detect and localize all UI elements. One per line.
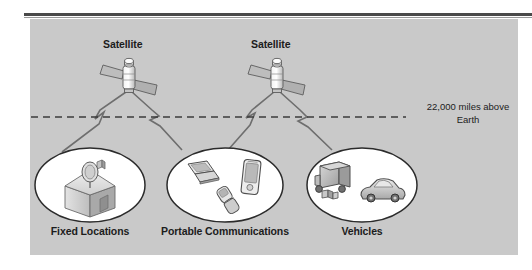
group-label-vehicles: Vehicles bbox=[312, 225, 412, 237]
group-label-portable-communications: Portable Communications bbox=[147, 225, 303, 237]
altitude-annotation: 22,000 miles above Earth bbox=[412, 100, 524, 126]
satellite-label-left: Satellite bbox=[103, 38, 142, 50]
group-label-fixed-locations: Fixed Locations bbox=[40, 225, 140, 237]
satellite-icon-left bbox=[100, 58, 157, 95]
figure-canvas: Satellite Satellite 22,000 miles above E… bbox=[0, 0, 532, 270]
altitude-line-2: Earth bbox=[412, 113, 524, 126]
satellite-label-right: Satellite bbox=[251, 38, 290, 50]
group-ellipse-portable-communications bbox=[167, 148, 283, 222]
link-lines bbox=[62, 92, 332, 152]
satellite-icon-right bbox=[248, 58, 305, 95]
altitude-line-1: 22,000 miles above bbox=[412, 100, 524, 113]
pda-handheld-icon bbox=[241, 159, 261, 195]
